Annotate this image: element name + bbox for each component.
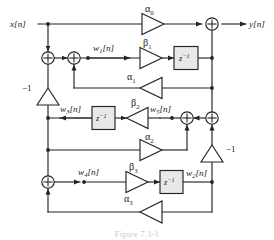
figure-caption: Figure 7.3-1 — [0, 230, 274, 239]
label-gain-neg1-left: −1 — [22, 83, 32, 93]
figure-container: x[n] y[n] α0 β1 α1 β2 α2 β3 α3 −1 −1 w1[… — [0, 0, 274, 240]
label-gain-alpha2: α2 — [145, 131, 154, 144]
gain-beta3-triangle — [126, 172, 148, 193]
signal-flow-diagram: x[n] y[n] α0 β1 α1 β2 α2 β3 α3 −1 −1 w1[… — [0, 0, 274, 240]
label-gain-neg1-right: −1 — [226, 144, 236, 154]
junction-w5 — [170, 116, 174, 120]
gain-neg1-left-triangle — [37, 88, 59, 105]
junction-right-rail-88 — [210, 86, 214, 90]
gain-alpha0-triangle — [142, 14, 164, 35]
gain-alpha3-triangle — [140, 201, 162, 223]
junction-w1 — [86, 56, 90, 60]
label-signal-w2: w2[n] — [186, 168, 208, 179]
label-gain-beta1: β1 — [143, 37, 152, 50]
gain-beta2-triangle — [127, 108, 149, 129]
label-output-yn: y[n] — [248, 19, 265, 29]
label-gain-beta3: β3 — [129, 161, 138, 174]
label-signal-w5: w5[n] — [150, 104, 172, 115]
junction-w4 — [82, 180, 86, 184]
label-gain-beta2: β2 — [131, 97, 140, 110]
label-gain-alpha3: α3 — [124, 193, 133, 206]
gain-alpha1-triangle — [140, 78, 162, 99]
label-gain-alpha1: α1 — [127, 71, 136, 84]
label-signal-w1: w1[n] — [93, 43, 115, 54]
label-signal-w4: w4[n] — [78, 167, 100, 178]
label-signal-w3: w3[n] — [60, 104, 82, 115]
junction-right-rail-58 — [210, 56, 214, 60]
gain-neg1-right-triangle — [201, 145, 223, 162]
label-gain-alpha0: α0 — [145, 3, 154, 16]
gain-beta1-triangle — [140, 48, 162, 69]
label-input-xn: x[n] — [9, 19, 26, 29]
